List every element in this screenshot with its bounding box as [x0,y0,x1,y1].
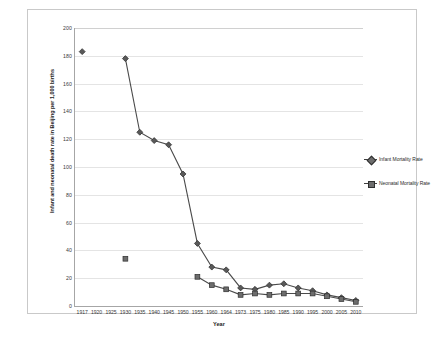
y-axis-tick-label: 120 [63,136,72,142]
x-axis-tick-label: 1925 [105,309,116,315]
x-axis-tick-label: 1975 [249,309,260,315]
data-point-diamond[interactable] [180,171,186,177]
x-axis-tick-label: 1973 [235,309,246,315]
data-point-square[interactable] [310,291,315,296]
x-axis-title: Year [75,321,363,327]
x-axis-tick-label: 1980 [264,309,275,315]
x-axis-tick-label: 1930 [120,309,131,315]
series-layer [75,28,363,306]
data-point-diamond[interactable] [209,264,215,270]
x-axis-tick-label: 1935 [134,309,145,315]
y-axis-tick-label: 80 [66,192,72,198]
x-axis-tick-label: 1950 [177,309,188,315]
data-point-diamond[interactable] [166,142,172,148]
legend-line-icon [364,183,377,184]
x-axis-tick-label: 1990 [293,309,304,315]
data-point-square[interactable] [267,292,272,297]
x-axis-tick-label: 2000 [321,309,332,315]
y-axis-tick-label: 20 [66,275,72,281]
data-point-diamond[interactable] [194,240,200,246]
data-point-square[interactable] [253,291,258,296]
chart-frame: 020406080100120140160180200 191719201925… [27,9,417,314]
data-point-square[interactable] [224,287,229,292]
diamond-marker-icon [367,156,377,166]
data-point-square[interactable] [296,291,301,296]
x-axis-tick-label: 1995 [307,309,318,315]
data-point-diamond[interactable] [266,282,272,288]
data-point-diamond[interactable] [281,281,287,287]
series-line [197,277,355,302]
y-axis-tick-label: 160 [63,81,72,87]
y-axis-tick-label: 140 [63,108,72,114]
x-axis-tick-label: 2005 [336,309,347,315]
legend-item-neonatal-mortality-rate[interactable]: Neonatal Mortality Rate [364,180,430,186]
y-axis-tick-label: 200 [63,25,72,31]
x-axis-tick-label: 1964 [221,309,232,315]
y-axis-title: Infant and neonatal death rate in Beijin… [49,31,55,251]
data-point-diamond[interactable] [79,49,85,55]
y-axis-tick-label: 180 [63,53,72,59]
data-point-square[interactable] [209,283,214,288]
x-axis-tick-label: 1955 [192,309,203,315]
x-axis-line [74,306,363,307]
legend-line-icon [364,159,377,160]
legend-label: Infant Mortality Rate [379,156,423,162]
x-axis-tick-label: 1920 [91,309,102,315]
y-axis-tick-label: 0 [69,303,72,309]
x-axis-tick-label: 1917 [77,309,88,315]
y-axis-tick-label: 40 [66,247,72,253]
data-point-diamond[interactable] [151,138,157,144]
x-axis-tick-label: 1945 [163,309,174,315]
square-marker-icon [368,181,375,188]
data-point-square[interactable] [339,297,344,302]
data-point-square[interactable] [281,291,286,296]
x-axis-tick-labels: 1917192019251930193519401945195019551960… [75,309,363,321]
data-point-diamond[interactable] [137,129,143,135]
data-point-square[interactable] [123,256,128,261]
x-axis-tick-label: 1940 [149,309,160,315]
data-point-square[interactable] [238,292,243,297]
series-line [125,59,355,301]
y-axis-tick-label: 100 [63,164,72,170]
data-point-diamond[interactable] [122,56,128,62]
legend-item-infant-mortality-rate[interactable]: Infant Mortality Rate [364,156,423,162]
data-point-square[interactable] [195,274,200,279]
legend-label: Neonatal Mortality Rate [379,180,430,186]
x-axis-tick-label: 2010 [350,309,361,315]
data-point-diamond[interactable] [295,285,301,291]
data-point-square[interactable] [353,299,358,304]
y-axis-tick-label: 60 [66,220,72,226]
plot-area [75,28,363,306]
y-axis-line [74,28,75,306]
data-point-square[interactable] [325,294,330,299]
x-axis-tick-label: 1985 [278,309,289,315]
x-axis-tick-label: 1960 [206,309,217,315]
